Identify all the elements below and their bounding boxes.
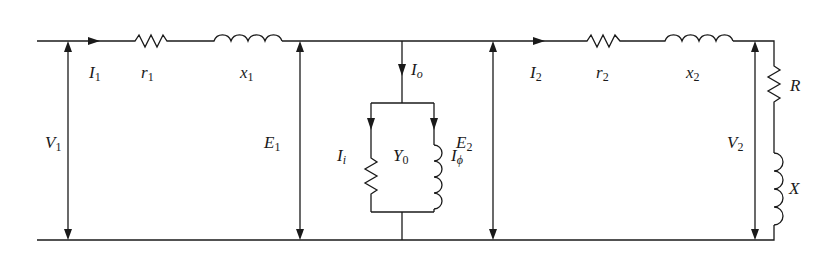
transformer-equivalent-circuit <box>0 0 840 260</box>
label-V1: V1 <box>45 134 61 153</box>
current-arrow-Io <box>398 64 406 76</box>
label-Io: Io <box>411 61 423 80</box>
voltage-arrow-V1 <box>64 41 72 240</box>
label-E1: E1 <box>264 134 280 153</box>
voltage-arrow-V2 <box>751 41 759 240</box>
label-I2: I2 <box>530 64 542 83</box>
label-Y0: Y0 <box>393 147 408 166</box>
top-wire <box>37 41 774 63</box>
load-inductor-X <box>774 153 783 225</box>
voltage-arrow-E1 <box>296 41 304 240</box>
label-r2: r2 <box>596 64 609 83</box>
inductor-x1 <box>212 35 282 41</box>
voltage-arrow-E2 <box>489 41 497 240</box>
inductor-x2 <box>663 35 733 41</box>
label-X: X <box>789 180 799 197</box>
load-resistor-R <box>768 63 780 107</box>
current-arrow-I2 <box>533 37 545 45</box>
label-R: R <box>790 77 800 94</box>
current-arrow-Iphi <box>430 118 438 130</box>
current-arrow-I1 <box>88 37 100 45</box>
label-r1: r1 <box>141 64 154 83</box>
label-V2: V2 <box>727 134 743 153</box>
label-E2: E2 <box>456 134 472 153</box>
label-I1: I1 <box>89 64 101 83</box>
current-arrow-Ii <box>367 118 375 130</box>
resistor-r1 <box>132 35 172 47</box>
bottom-wire <box>37 225 774 240</box>
inductor-Y0-magnetizing <box>434 145 442 209</box>
resistor-Y0-core-loss <box>365 155 377 197</box>
shunt-branch-Y0 <box>365 41 442 240</box>
label-x1: x1 <box>240 64 254 83</box>
label-Ii: Ii <box>337 147 346 166</box>
label-x2: x2 <box>686 64 700 83</box>
resistor-r2 <box>584 35 626 47</box>
